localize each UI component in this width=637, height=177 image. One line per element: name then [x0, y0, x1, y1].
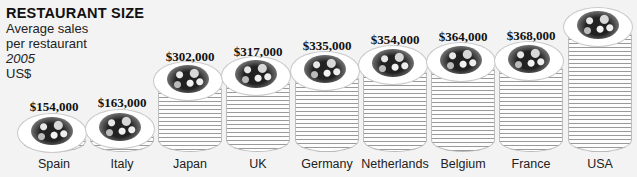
bar-usa: USA: [566, 0, 634, 177]
bar-belgium: $364,000Belgium: [429, 0, 497, 177]
food-icon: [304, 55, 346, 83]
plate-icon: [222, 57, 290, 95]
value-label: $317,000: [218, 44, 298, 60]
food-icon: [372, 49, 414, 77]
plate-icon: [495, 42, 563, 80]
bar-uk: $317,000UK: [224, 0, 292, 177]
category-label: USA: [555, 157, 637, 171]
value-label: $163,000: [82, 95, 162, 111]
bar-france: $368,000France: [497, 0, 565, 177]
food-icon: [508, 45, 550, 73]
plate-icon: [86, 110, 154, 148]
plate-icon: [154, 62, 222, 100]
bar-italy: $163,000Italy: [88, 0, 156, 177]
plate-icon: [359, 46, 427, 84]
bar-netherlands: $354,000Netherlands: [361, 0, 429, 177]
food-icon: [31, 117, 73, 145]
plate-icon: [427, 43, 495, 81]
food-icon: [577, 11, 619, 39]
bar-spain: $154,000Spain: [20, 0, 88, 177]
food-icon: [99, 113, 141, 141]
bar-germany: $335,000Germany: [293, 0, 361, 177]
food-icon: [440, 46, 482, 74]
food-icon: [235, 60, 277, 88]
value-label: $368,000: [491, 28, 571, 44]
bar-japan: $302,000Japan: [156, 0, 224, 177]
plate-icon: [291, 52, 359, 90]
plate-icon: [564, 8, 632, 46]
plate-icon: [18, 114, 86, 152]
food-icon: [167, 65, 209, 93]
